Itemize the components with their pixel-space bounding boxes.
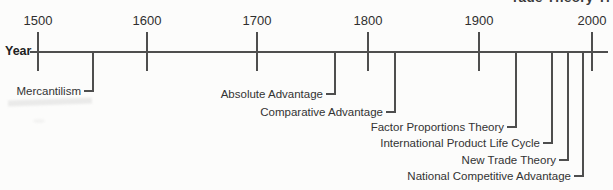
axis-tick-1500 [37,32,39,71]
event-connector-elbow [326,93,336,95]
event-connector-vertical [551,51,553,143]
event-label: Factor Proportions Theory [371,121,504,133]
event-label: Mercantilism [16,85,81,97]
event-connector-vertical [567,51,569,160]
axis-tick-1900 [478,32,480,71]
event-connector-vertical [515,51,517,127]
axis-tick-label: 1600 [133,13,162,28]
axis-tick-2000 [591,32,593,71]
event-label: International Product Life Cycle [380,137,540,149]
scan-artifact-dot [33,119,45,123]
axis-tick-label: 2000 [578,13,607,28]
event-connector-elbow [574,175,584,177]
axis-tick-label: 1900 [465,13,494,28]
event-connector-elbow [507,126,517,128]
event-connector-elbow [84,90,94,92]
event-label: Comparative Advantage [260,106,383,118]
trade-theory-timeline-figure: rade Theory Ti Year 15001600170018001900… [0,0,613,190]
event-label: National Competitive Advantage [407,170,571,182]
event-label: New Trade Theory [462,154,556,166]
axis-tick-1700 [256,32,258,71]
scan-artifact-smudge [8,98,92,107]
axis-tick-label: 1500 [24,13,53,28]
event-connector-vertical [394,51,396,112]
partial-heading-text: rade Theory Ti [513,0,610,5]
axis-tick-label: 1800 [354,13,383,28]
event-connector-elbow [386,111,396,113]
timeline-axis-line [30,51,608,53]
event-connector-vertical [334,51,336,94]
event-connector-elbow [543,142,553,144]
event-label: Absolute Advantage [221,88,323,100]
axis-tick-1800 [367,32,369,71]
event-connector-elbow [559,159,569,161]
event-connector-vertical [582,51,584,176]
axis-tick-label: 1700 [243,13,272,28]
year-axis-label: Year [5,44,31,58]
axis-tick-1600 [146,32,148,71]
event-connector-vertical [92,51,94,91]
